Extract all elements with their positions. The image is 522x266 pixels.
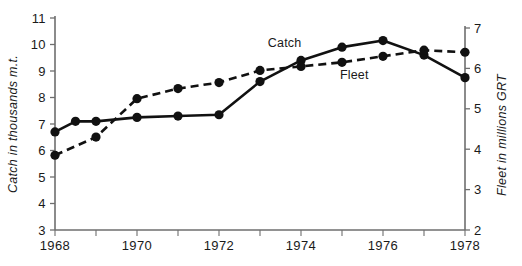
y-axis-tick-label: 6 [38, 143, 46, 158]
data-markers-group [50, 36, 469, 160]
y-axis-tick-label: 9 [38, 64, 46, 79]
x-axis-tick-label: 1978 [450, 238, 481, 253]
data-point-catch [378, 36, 387, 45]
data-point-catch [460, 73, 469, 82]
y2-axis-tick-label: 5 [474, 101, 482, 116]
series-label-catch: Catch [268, 36, 302, 50]
y2-axis-tick-label: 7 [474, 21, 482, 36]
x-axis-tick-label: 1974 [286, 238, 317, 253]
data-point-catch [50, 127, 59, 136]
data-point-fleet [378, 52, 387, 61]
data-point-catch [337, 43, 346, 52]
series-annotations-group: CatchFleet [268, 36, 369, 81]
x-axis-tick-label: 1972 [204, 238, 235, 253]
y-axis-tick-label: 11 [32, 11, 46, 26]
x-axis-tick-label: 1968 [40, 238, 71, 253]
y2-axis-tick-label: 6 [474, 61, 482, 76]
y-axis-tick-label: 10 [31, 37, 46, 52]
data-point-catch [71, 117, 80, 126]
axis-titles-group: Catch in thousands m.t.Fleet in millions… [6, 55, 509, 196]
data-series-group [55, 41, 465, 156]
y2-axis-title: Fleet in millions GRT [495, 73, 509, 196]
data-point-catch [91, 117, 100, 126]
data-point-fleet [91, 132, 100, 141]
y2-axis-tick-label: 3 [474, 182, 482, 197]
data-point-fleet [255, 66, 264, 75]
y-axis-tick-label: 8 [38, 90, 46, 105]
x-axis-tick-label: 1976 [368, 238, 399, 253]
tick-labels-group: 3456789101123456719681970197219741976197… [31, 11, 482, 254]
data-point-fleet [296, 62, 305, 71]
data-point-fleet [173, 84, 182, 93]
y-axis-tick-label: 3 [38, 223, 46, 238]
x-axis-tick-label: 1970 [122, 238, 153, 253]
y2-axis-tick-label: 4 [474, 142, 482, 157]
y-axis-tick-label: 4 [38, 196, 46, 211]
data-point-fleet [337, 58, 346, 67]
ticks-group [50, 18, 470, 236]
y-axis-title: Catch in thousands m.t. [6, 55, 20, 193]
data-point-catch [132, 113, 141, 122]
data-point-catch [255, 77, 264, 86]
series-label-fleet: Fleet [340, 68, 369, 82]
data-point-fleet [419, 46, 428, 55]
data-point-fleet [132, 94, 141, 103]
data-point-fleet [460, 48, 469, 57]
chart-container: 3456789101123456719681970197219741976197… [0, 0, 522, 266]
y-axis-tick-label: 5 [38, 170, 46, 185]
y-axis-tick-label: 7 [38, 117, 46, 132]
data-point-catch [173, 111, 182, 120]
data-point-fleet [214, 78, 223, 87]
chart-canvas: 3456789101123456719681970197219741976197… [0, 0, 522, 266]
data-point-fleet [50, 151, 59, 160]
y2-axis-tick-label: 2 [474, 223, 482, 238]
data-point-catch [214, 110, 223, 119]
